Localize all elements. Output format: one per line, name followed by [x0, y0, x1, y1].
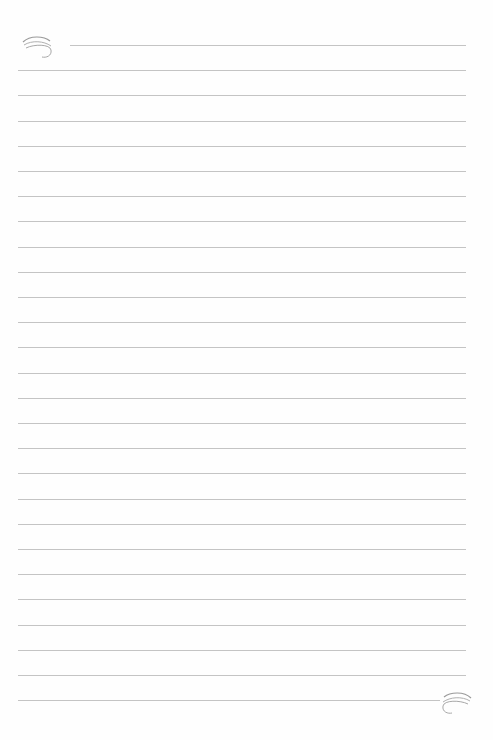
ruled-line [18, 625, 466, 626]
ruled-line [18, 473, 466, 474]
ruled-line [18, 574, 466, 575]
ruled-line [18, 675, 466, 676]
top-left-flourish-icon [20, 32, 56, 60]
ruled-line [18, 322, 466, 323]
ruled-line [18, 272, 466, 273]
ruled-line [70, 45, 466, 46]
ruled-line [18, 549, 466, 550]
ruled-line [18, 70, 466, 71]
ruled-line [18, 121, 466, 122]
ruled-line [18, 95, 466, 96]
ruled-line [18, 146, 466, 147]
ruled-line [18, 599, 466, 600]
ruled-line [18, 700, 440, 701]
ruled-line [18, 297, 466, 298]
ruled-line [18, 171, 466, 172]
ruled-line [18, 398, 466, 399]
ruled-line [18, 347, 466, 348]
ruled-line [18, 423, 466, 424]
ruled-line [18, 499, 466, 500]
ruled-line [18, 196, 466, 197]
lined-paper-page [0, 0, 493, 740]
ruled-line [18, 221, 466, 222]
ruled-line [18, 448, 466, 449]
ruled-line [18, 373, 466, 374]
ruled-line [18, 524, 466, 525]
ruled-line [18, 650, 466, 651]
bottom-right-flourish-icon [438, 688, 474, 716]
ruled-line [18, 247, 466, 248]
